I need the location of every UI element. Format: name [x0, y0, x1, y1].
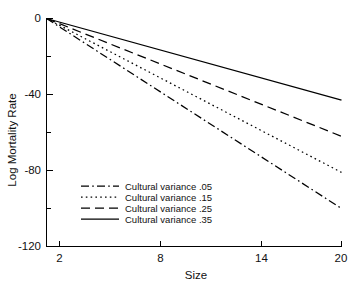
y-tick-label-1: -40	[24, 88, 41, 100]
legend-label-0: Cultural variance .05	[125, 181, 212, 192]
y-tick-label-0: 0	[35, 12, 41, 24]
y-tick-label-2: -80	[24, 164, 41, 176]
chart-canvas: 0 -40 -80 -120 Log Mortality Rate 2 8 14…	[0, 0, 356, 286]
legend-item-cultural-variance-35: Cultural variance .35	[81, 214, 212, 225]
legend-item-cultural-variance-25: Cultural variance .25	[81, 203, 212, 214]
legend-item-cultural-variance-15: Cultural variance .15	[81, 192, 212, 203]
x-axis-title: Size	[185, 269, 207, 281]
legend-label-2: Cultural variance .25	[125, 203, 212, 214]
legend: Cultural variance .05 Cultural variance …	[81, 181, 212, 225]
x-tick-label-0: 2	[56, 252, 62, 264]
series-line-cultural-variance-15	[47, 19, 342, 173]
series-line-cultural-variance-25	[47, 19, 342, 137]
legend-label-1: Cultural variance .15	[125, 192, 212, 203]
x-tick-label-1: 8	[157, 252, 163, 264]
x-tick-label-3: 20	[335, 252, 348, 264]
x-axis-major-ticks	[60, 241, 342, 247]
legend-item-cultural-variance-05: Cultural variance .05	[81, 181, 212, 192]
series-line-cultural-variance-35	[47, 19, 342, 101]
y-axis-title: Log Mortality Rate	[6, 93, 18, 186]
line-chart: 0 -40 -80 -120 Log Mortality Rate 2 8 14…	[0, 0, 356, 286]
y-axis-minor-ticks	[47, 57, 52, 209]
legend-label-3: Cultural variance .35	[125, 214, 212, 225]
x-tick-label-2: 14	[255, 252, 268, 264]
y-tick-label-3: -120	[18, 240, 41, 252]
